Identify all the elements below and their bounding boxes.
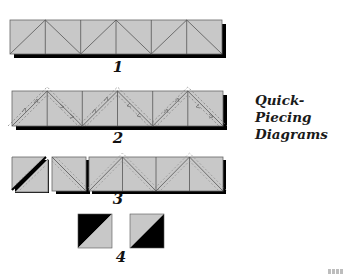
hst-unit-dark-top-left [78,214,112,248]
corner-mark [328,269,344,274]
title-line-2: Diagrams [255,126,348,143]
step-2-label: 2 [108,129,128,147]
step-2-strip [8,87,227,130]
hst-unit-dark-bottom-right [130,214,164,248]
diagram-title: Quick-Piecing Diagrams [255,92,348,143]
step-1-strip [10,20,226,58]
step-1-label: 1 [108,58,128,76]
step-3-pieces [12,153,227,194]
step-4-half-square-triangles [78,214,164,248]
step-3-label: 3 [108,190,128,208]
step-4-label: 4 [111,248,131,266]
title-line-1: Quick-Piecing [255,92,348,126]
